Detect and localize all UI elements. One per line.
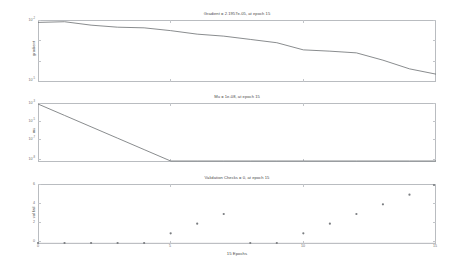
valfail-point-9 [276,242,278,244]
ytick-valfail-0: 6 [33,182,35,186]
valfail-point-8 [249,242,251,244]
ytick-gradient-0-exp: -2 [33,17,35,20]
ylabel-gradient: gradient [31,24,36,74]
panel-validation-checks: Validation Checks = 0, at epoch 15 val f… [38,184,436,244]
ylabel-gradient-text: gradient [31,41,36,56]
ytick-mu-2-exp: -7 [33,136,35,139]
training-state-figure: Gradient = 2.1957e-05, at epoch 15 gradi… [0,0,471,270]
panel-mu: Mu = 1e-08, at epoch 15 mu 10-3 10-5 10-… [38,103,436,162]
valfail-point-5 [170,232,172,234]
ytick-valfail-1: 4 [33,201,35,205]
series-validation-checks [38,184,436,244]
panel-title-validation-checks: Validation Checks = 0, at epoch 15 [38,175,436,180]
valfail-point-10 [302,232,304,234]
ytick-gradient-1: 10-5 [29,78,35,82]
valfail-point-15 [433,184,435,186]
valfail-point-6 [196,223,198,225]
panel-title-mu: Mu = 1e-08, at epoch 15 [38,94,436,99]
valfail-markers [37,184,435,244]
xlabel: 15 Epochs [38,251,436,256]
mu-line [38,104,436,161]
ytick-mu-0: 10-3 [29,101,35,105]
xtick-10: 10 [297,244,309,248]
valfail-point-7 [223,213,225,215]
panel-gradient: Gradient = 2.1957e-05, at epoch 15 gradi… [38,20,436,82]
ytick-mu-2: 10-7 [29,137,35,141]
xtick-15: 15 [429,244,441,248]
valfail-point-1 [63,242,65,244]
xtick-5: 5 [164,244,176,248]
xtick-0: 0 [32,244,44,248]
ytick-valfail-2: 2 [33,220,35,224]
ytick-mu-0-exp: -3 [33,100,35,103]
gradient-line [38,22,436,74]
ytick-mu-1-exp: -5 [33,118,35,121]
valfail-point-3 [117,242,119,244]
valfail-point-12 [355,213,357,215]
ytick-mu-3: 10-8 [29,157,35,161]
valfail-point-11 [329,223,331,225]
ylabel-validation-checks-text: val fail [31,207,36,219]
ylabel-mu: mu [31,106,36,156]
series-mu [38,103,436,162]
valfail-point-14 [408,194,410,196]
valfail-point-4 [143,242,145,244]
ytick-gradient-1-exp: -5 [33,77,35,80]
panel-title-gradient: Gradient = 2.1957e-05, at epoch 15 [38,11,436,16]
valfail-point-2 [90,242,92,244]
ylabel-mu-text: mu [31,128,36,134]
valfail-point-13 [382,203,384,205]
ytick-mu-1: 10-5 [29,119,35,123]
ytick-valfail-3: 0 [33,239,35,243]
series-gradient [38,20,436,82]
ytick-gradient-0: 10-2 [29,18,35,22]
ytick-mu-3-exp: -8 [33,156,35,159]
ylabel-validation-checks: val fail [31,188,36,238]
